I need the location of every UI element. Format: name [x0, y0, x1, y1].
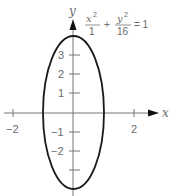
y-tick-label: 1	[58, 87, 64, 99]
x-tick-label: −2	[6, 123, 19, 135]
eq-y-den: 16	[117, 26, 129, 37]
eq-plus: +	[104, 19, 110, 30]
y-tick-label: −1	[51, 126, 64, 138]
eq-x-var: x	[86, 13, 92, 24]
eq-x-den: 1	[89, 26, 95, 37]
x-axis-arrow-icon	[148, 110, 159, 117]
x-tick-label: 2	[131, 123, 137, 135]
y-axis-arrow-icon	[70, 19, 77, 30]
y-tick-label: 2	[58, 68, 64, 80]
eq-y-exp: 2	[124, 11, 128, 18]
y-tick-label: −2	[51, 145, 64, 157]
eq-equals: = 1	[134, 19, 149, 30]
eq-x-exp: 2	[93, 11, 97, 18]
equation-label: x 2 1 + y 2 16 = 1	[85, 11, 149, 37]
x-axis-label: x	[162, 106, 169, 120]
y-axis-label: y	[68, 4, 76, 18]
ellipse-chart: x y −2 2 3 2 1 −1 −2 x 2 1 + y 2 16 = 1	[0, 0, 170, 196]
y-tick-label: 3	[58, 49, 64, 61]
eq-y-var: y	[116, 13, 123, 24]
